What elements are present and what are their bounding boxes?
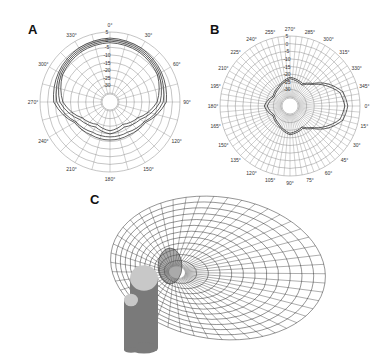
- inner-lobe: [158, 248, 182, 284]
- cylinder: [124, 294, 138, 353]
- balloon-3d-c: [0, 0, 385, 354]
